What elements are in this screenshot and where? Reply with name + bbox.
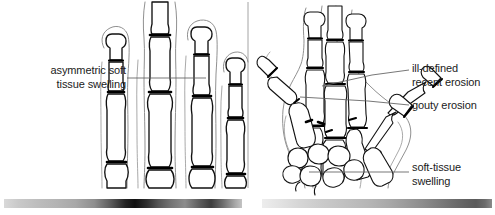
finger-4 [221,52,248,188]
gradient-strip-right [262,199,492,208]
finger-2 [137,2,177,188]
right-hand-middle-finger [324,6,347,138]
figure-root: .bone { fill:#ffffff; stroke:#111111; st… [0,0,495,215]
finger-1 [101,26,129,188]
gradient-strip-left [4,199,242,208]
label-soft-tissue-swelling: soft-tissue swelling [412,161,495,188]
finger-3 [185,20,217,188]
label-gouty-erosion: gouty erosion [412,99,495,113]
right-hand-ring-finger [346,14,367,128]
label-asymmetric-soft-tissue-swelling: asymmetric soft tissue swelling [2,64,126,91]
label-ill-defined-recent-erosion: ill-defined recent erosion [412,62,495,89]
left-panel-fingers [101,2,248,188]
